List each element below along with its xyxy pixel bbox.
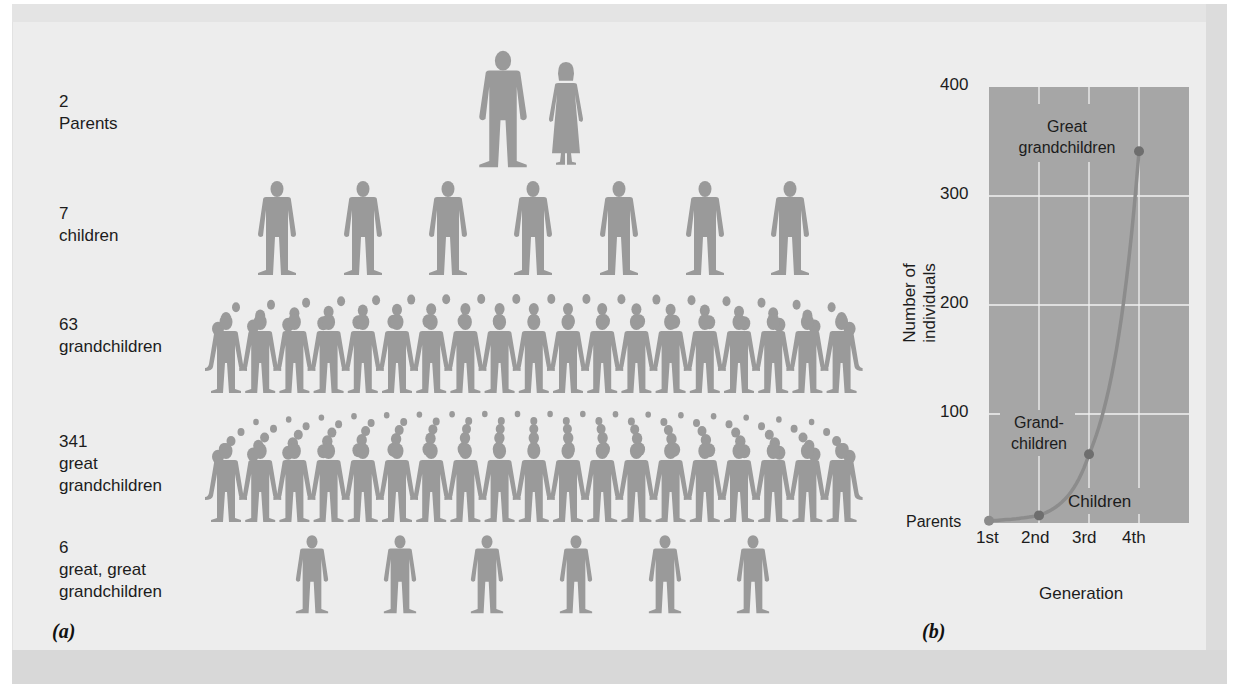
great-grandchildren-crowd-icon bbox=[205, 411, 863, 522]
x-axis-label: Generation bbox=[1039, 584, 1123, 604]
x-tick-1st: 1st bbox=[976, 528, 999, 548]
great-great-grandchildren-icons bbox=[296, 535, 769, 613]
children-icons bbox=[258, 181, 809, 275]
parent-man-icon bbox=[479, 51, 527, 168]
annotation-line: children bbox=[999, 433, 1079, 454]
y-tick-100: 100 bbox=[940, 402, 968, 422]
data-point bbox=[1084, 449, 1094, 459]
y-axis-label: Number of individuals bbox=[900, 223, 940, 383]
data-point bbox=[984, 516, 994, 526]
y-tick-200: 200 bbox=[940, 293, 968, 313]
data-point bbox=[1034, 510, 1044, 520]
annotation-parents: Parents bbox=[906, 511, 961, 532]
data-point bbox=[1134, 146, 1144, 156]
annotation-line: grandchildren bbox=[1003, 137, 1131, 158]
annotation-children: Children bbox=[1068, 491, 1131, 512]
grandchildren-crowd-icon bbox=[205, 294, 863, 393]
annotation-great-grandchildren: Great grandchildren bbox=[1003, 116, 1131, 158]
annotation-line: Great bbox=[1003, 116, 1131, 137]
x-tick-4th: 4th bbox=[1122, 528, 1146, 548]
annotation-grandchildren: Grand- children bbox=[999, 412, 1079, 454]
y-tick-300: 300 bbox=[940, 184, 968, 204]
parent-woman-icon bbox=[549, 62, 583, 165]
y-tick-400: 400 bbox=[940, 75, 968, 95]
x-tick-3rd: 3rd bbox=[1072, 528, 1097, 548]
annotation-line: Grand- bbox=[999, 412, 1079, 433]
x-tick-2nd: 2nd bbox=[1021, 528, 1049, 548]
